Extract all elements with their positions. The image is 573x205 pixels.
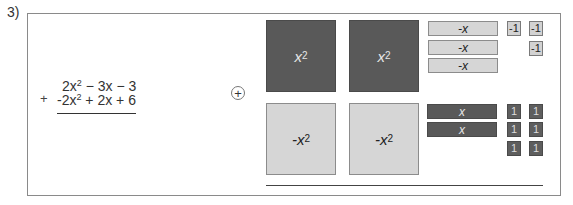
addend-2-rest: + 2x + 6 xyxy=(81,92,135,108)
tile-one: 1 xyxy=(529,122,543,137)
operation-sign: + xyxy=(40,92,48,106)
tile-neg-x-squared: -x2 xyxy=(266,103,336,175)
tile-label: -x xyxy=(292,131,305,148)
tile-one: 1 xyxy=(529,141,543,156)
tile-one: 1 xyxy=(507,104,521,119)
tile-neg-x: -x xyxy=(428,40,498,55)
tile-one: 1 xyxy=(529,104,543,119)
addend-2: -2x2 + 2x + 6 xyxy=(57,93,136,107)
addend-1: 2x2 − 3x − 3 xyxy=(62,79,136,93)
tile-x-squared: x2 xyxy=(266,20,336,92)
tile-one: 1 xyxy=(507,122,521,137)
tile-x-squared: x2 xyxy=(349,20,419,92)
tile-neg-one: -1 xyxy=(529,41,543,56)
tile-neg-x: -x xyxy=(428,21,498,36)
tile-label: x xyxy=(294,48,302,65)
tile-neg-x-squared: -x2 xyxy=(349,103,419,175)
tile-neg-one: -1 xyxy=(507,21,521,36)
circled-plus-icon: + xyxy=(231,86,245,100)
tile-neg-x: -x xyxy=(428,58,498,73)
addend-2-term: -2x xyxy=(57,92,76,108)
tile-x: x xyxy=(427,104,497,119)
tile-one: 1 xyxy=(507,141,521,156)
result-line xyxy=(266,185,543,186)
tile-x: x xyxy=(427,122,497,137)
problem-number: 3) xyxy=(7,4,19,20)
tile-neg-one: -1 xyxy=(529,21,543,36)
tile-label: -x xyxy=(375,131,388,148)
tile-label: x xyxy=(377,48,385,65)
sum-underline xyxy=(57,113,136,114)
